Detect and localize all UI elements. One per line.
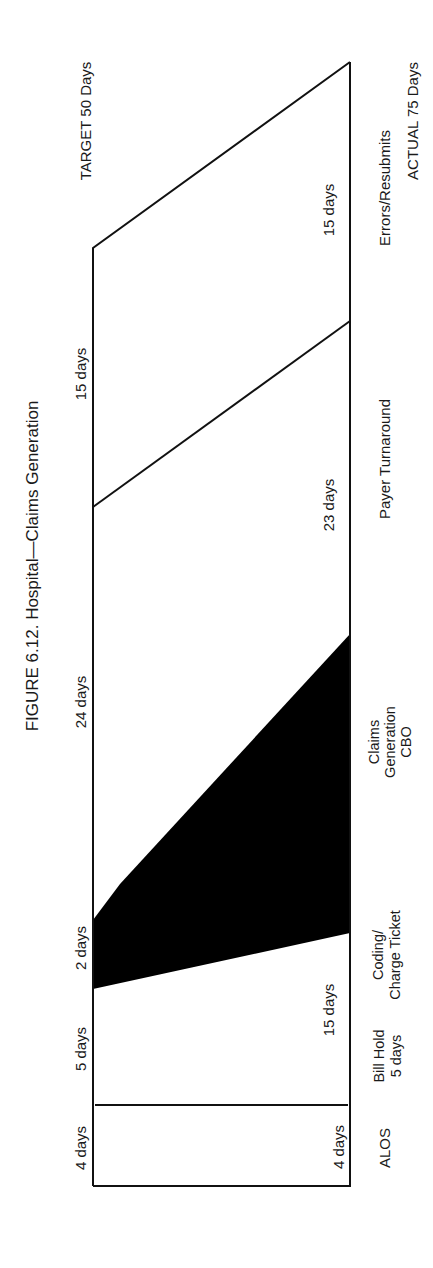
actual-segment-payer-turnaround: 23 days	[320, 479, 337, 532]
category-claims-generation-line3: CBO	[398, 726, 414, 757]
category-coding-line2: Charge Ticket	[387, 910, 403, 999]
category-bill-hold-line1: Bill Hold	[371, 1029, 387, 1082]
actual-segment-bill-hold-coding: 15 days	[320, 984, 337, 1037]
target-label: TARGET 50 Days	[77, 62, 94, 181]
category-errors-resubmits: Errors/Resubmits	[376, 130, 393, 246]
actual-segment-errors: 15 days	[320, 184, 337, 237]
category-alos: ALOS	[376, 1128, 393, 1168]
target-segment-bill-hold: 5 days	[72, 1027, 89, 1071]
target-boundary-line	[93, 62, 350, 1186]
figure-title: FIGURE 6.12. Hospital—Claims Generation	[23, 401, 42, 732]
actual-label: ACTUAL 75 Days	[404, 62, 421, 180]
category-coding-line1: Coding/	[370, 929, 386, 980]
category-bill-hold: Bill Hold 5 days	[371, 1029, 404, 1082]
actual-segment-alos: 4 days	[330, 1125, 347, 1169]
category-claims-generation: Claims Generation CBO	[366, 706, 414, 778]
payer-turnaround-divider	[93, 321, 350, 507]
category-bill-hold-line2: 5 days	[388, 1035, 404, 1078]
target-segment-payer-turnaround: 15 days	[72, 348, 89, 401]
actual-boundary-line	[93, 62, 350, 1186]
category-coding: Coding/ Charge Ticket	[370, 910, 403, 999]
category-claims-generation-line2: Generation	[382, 706, 398, 778]
target-segment-claims-generation: 24 days	[72, 676, 89, 729]
target-segment-coding: 2 days	[72, 926, 89, 970]
category-payer-turnaround: Payer Turnaround	[376, 399, 393, 519]
claims-generation-diagram: FIGURE 6.12. Hospital—Claims Generation …	[0, 0, 433, 1268]
claims-generation-highlight	[93, 634, 350, 989]
category-claims-generation-line1: Claims	[366, 720, 382, 764]
target-segment-alos: 4 days	[72, 1126, 89, 1170]
